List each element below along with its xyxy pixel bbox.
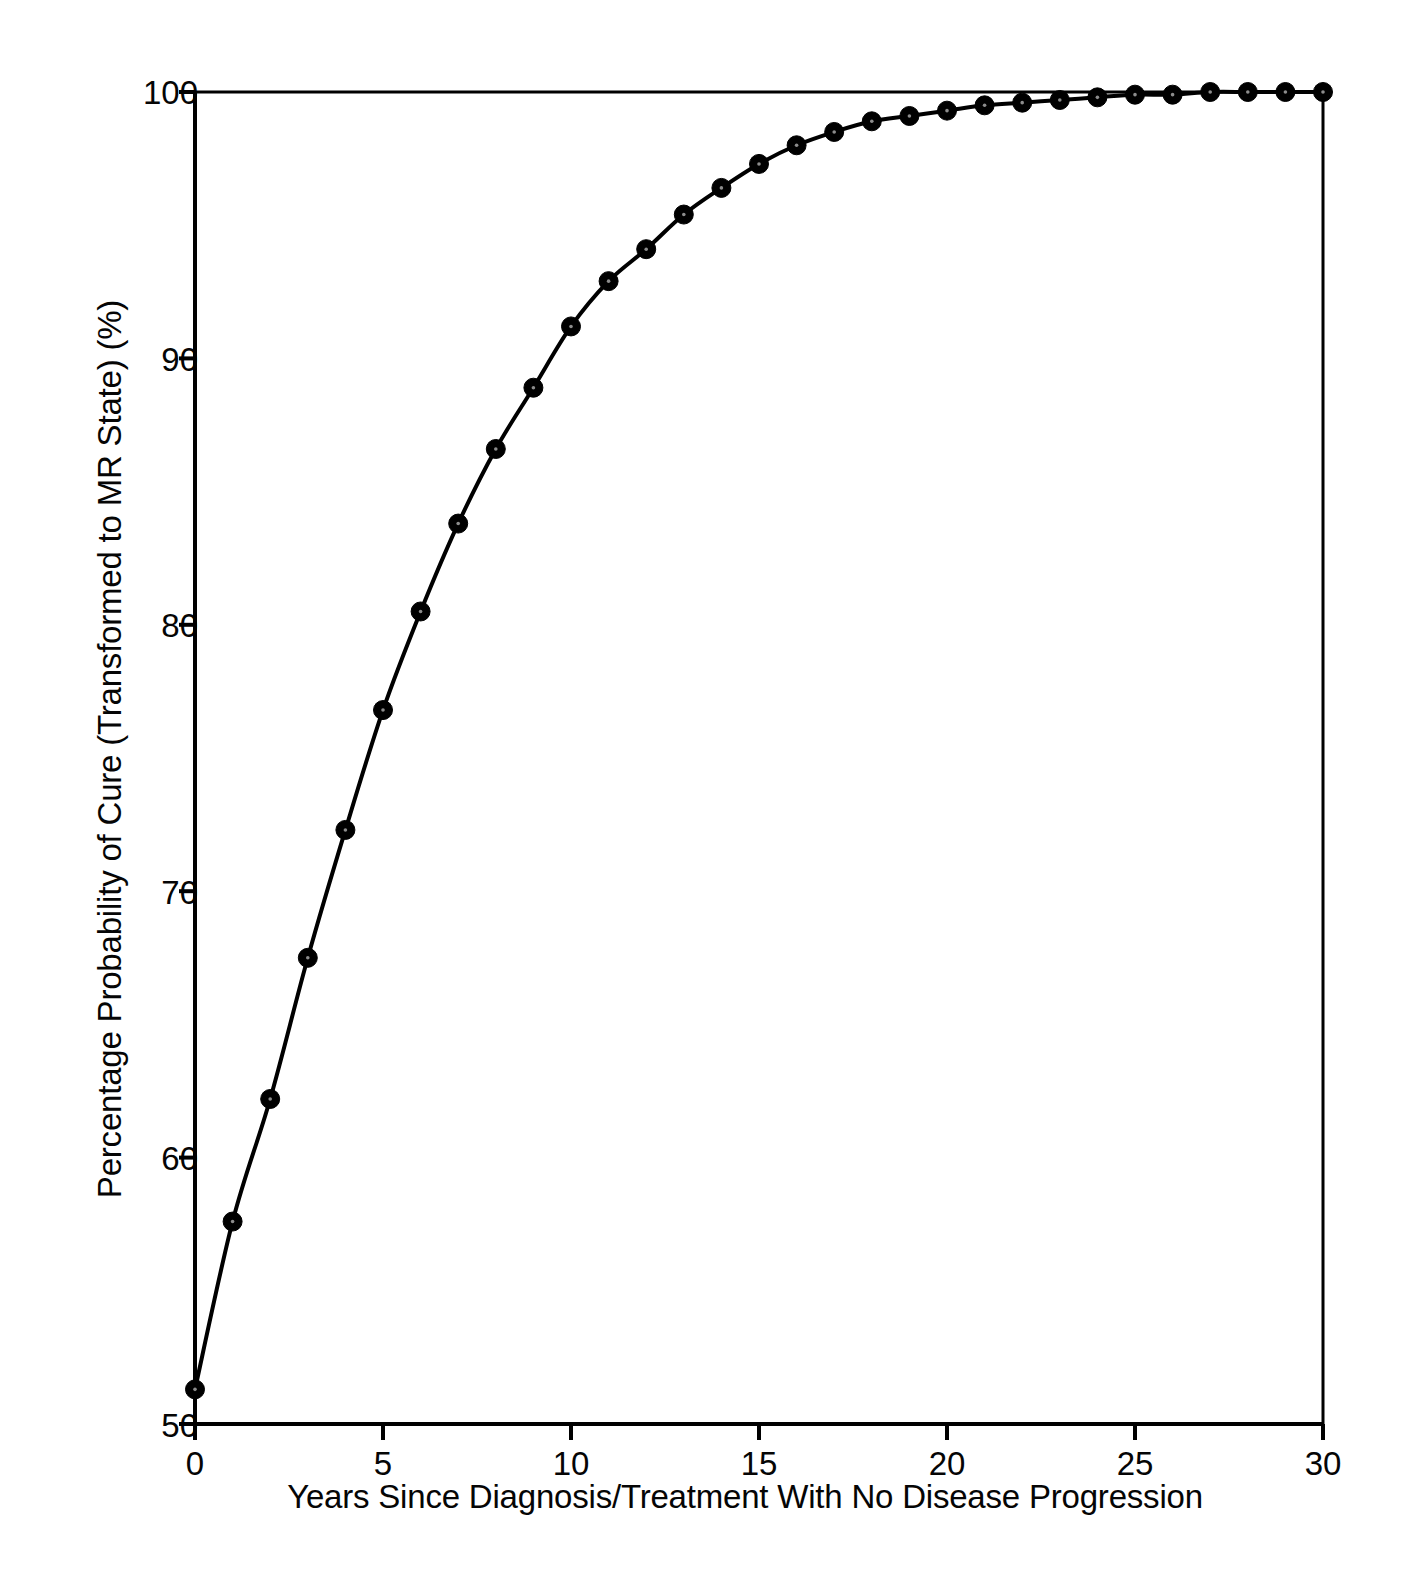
data-line-series-1 [195, 92, 1323, 1390]
data-point-marker-center [494, 447, 498, 451]
data-markers-series-1 [186, 83, 1333, 1399]
data-point-marker-center [344, 828, 348, 832]
data-point-marker-center [306, 956, 310, 960]
data-point-marker-center [682, 213, 686, 217]
data-point-marker-center [1058, 98, 1062, 102]
data-point-marker-center [908, 114, 912, 118]
y-axis-ticks [179, 92, 195, 1424]
data-point-marker-center [419, 610, 423, 614]
data-point-marker-center [381, 708, 385, 712]
data-point-marker-center [870, 120, 874, 124]
data-point-marker-center [569, 325, 573, 329]
data-point-marker-center [607, 279, 611, 283]
data-point-marker-center [795, 143, 799, 147]
data-point-marker-center [644, 247, 648, 251]
data-point-marker-center [231, 1220, 235, 1224]
axis-spines [195, 92, 1323, 1424]
data-point-marker-center [757, 162, 761, 166]
data-point-marker-center [1321, 90, 1325, 94]
data-point-marker-center [456, 522, 460, 526]
x-axis-ticks [195, 1424, 1323, 1440]
data-point-marker-center [1133, 93, 1137, 97]
data-point-marker-center [268, 1097, 272, 1101]
data-point-marker-center [1020, 101, 1024, 105]
data-point-marker-center [532, 386, 536, 390]
data-point-marker-center [1284, 90, 1288, 94]
plot-area [0, 0, 1420, 1571]
data-point-marker-center [1246, 90, 1250, 94]
data-point-marker-center [983, 104, 987, 108]
figure-canvas: Percentage Probability of Cure (Transfor… [0, 0, 1420, 1571]
data-point-marker-center [193, 1388, 197, 1392]
data-point-marker-center [832, 130, 836, 134]
data-point-marker-center [1096, 96, 1100, 100]
data-point-marker-center [720, 186, 724, 190]
data-point-marker-center [1208, 90, 1212, 94]
data-point-marker-center [1171, 93, 1175, 97]
data-point-marker-center [945, 109, 949, 113]
